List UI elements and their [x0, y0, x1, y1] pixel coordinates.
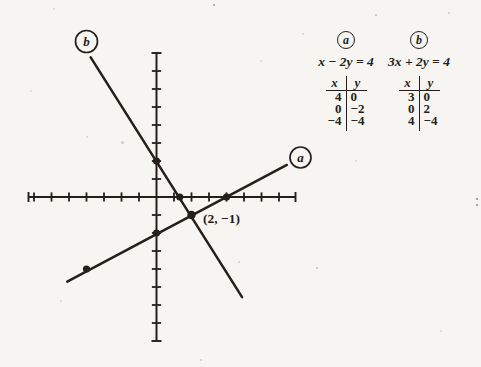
point-marker-a: [83, 265, 90, 272]
point-marker-b: [153, 157, 160, 164]
line-a: [67, 165, 287, 282]
point-marker-a: [223, 193, 230, 200]
table-row: −4 −4: [326, 115, 367, 127]
table-a-cell-2-0: −4: [326, 115, 347, 127]
table-b-header-row: x y: [399, 76, 440, 91]
solution-column-a: a x − 2y = 4 x y 4 0 0 −2 −4 −4: [316, 31, 376, 131]
table-row: 4 −4: [399, 115, 440, 127]
table-b-cell-2-0: 4: [399, 115, 420, 127]
label-a-badge: a: [337, 31, 355, 49]
solution-column-b: b 3x + 2y = 4 x y 3 0 0 2 4 −4: [385, 31, 453, 131]
label-b-badge: b: [410, 31, 428, 49]
table-b-cell-2-1: −4: [419, 115, 440, 127]
table-a-header-row: x y: [326, 76, 367, 91]
line-a-letter: a: [297, 150, 304, 165]
table-a: x y 4 0 0 −2 −4 −4: [326, 76, 367, 131]
table-row: 3 0: [399, 91, 440, 104]
label-b-text: b: [416, 34, 422, 46]
line-b-letter: b: [83, 34, 90, 49]
intersection-label: (2, −1): [203, 211, 240, 226]
table-b: x y 3 0 0 2 4 −4: [399, 76, 440, 131]
table-a-cell-2-1: −4: [346, 115, 367, 127]
equation-a: x − 2y = 4: [318, 54, 374, 70]
point-marker-a: [153, 229, 160, 236]
point-marker-b: [176, 193, 183, 200]
label-a-text: a: [343, 34, 349, 46]
textbook-figure: ab(2, −1) a x − 2y = 4 x y 4 0 0 −2: [0, 0, 481, 367]
line-b: [91, 57, 242, 297]
equation-b: 3x + 2y = 4: [388, 54, 450, 70]
intersection-point: [187, 211, 195, 219]
